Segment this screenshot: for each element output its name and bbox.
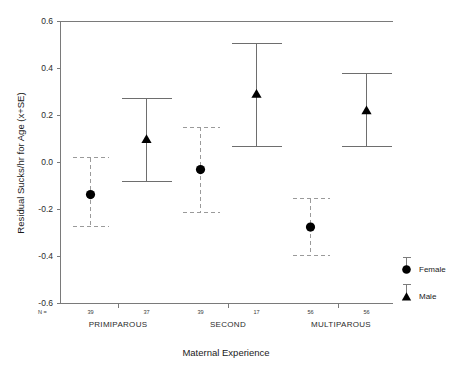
triangle-marker-male-multiparous [361,106,371,115]
legend-entry-female: Female [402,258,446,275]
data-group-primiparous [73,98,172,226]
triangle-marker-legend-male [402,292,411,300]
y-tick-label: -0.6 [38,298,53,308]
y-tick-label: -0.2 [38,204,53,214]
x-axis-title: Maternal Experience [182,347,269,358]
x-axis-group-labels: PRIMIPAROUS SECOND MULTIPAROUS [89,320,371,329]
n-value-male-multiparous: 56 [363,309,369,315]
triangle-marker-male-second [251,89,261,98]
n-value-female-multiparous: 56 [307,309,313,315]
n-value-female-primiparous: 39 [87,309,93,315]
n-value-male-primiparous: 37 [143,309,149,315]
x-group-label-primiparous: PRIMIPAROUS [89,320,148,329]
y-tick-label: 0.0 [41,157,53,167]
n-value-male-second: 17 [253,309,259,315]
triangle-marker-male-primiparous [141,134,151,143]
legend-label-male: Male [419,292,437,301]
x-group-label-second: SECOND [210,320,246,329]
data-group-multiparous [293,74,392,256]
chart-figure: 0.6 0.4 0.2 0.0 -0.2 -0.4 -0.6 Residual … [0,0,467,374]
y-tick-label: 0.6 [41,16,53,26]
circle-marker-legend-female [402,265,411,274]
plot-frame [61,22,393,304]
y-axis-ticks: 0.6 0.4 0.2 0.0 -0.2 -0.4 -0.6 [38,16,60,308]
y-tick-label: -0.4 [38,251,53,261]
x-group-label-multiparous: MULTIPAROUS [311,320,371,329]
legend-entry-male: Male [402,285,437,302]
y-tick-label: 0.2 [41,110,53,120]
circle-marker-female-multiparous [306,223,315,232]
circle-marker-female-second [196,165,205,174]
residual-sucks-scatter-plot: 0.6 0.4 0.2 0.0 -0.2 -0.4 -0.6 Residual … [0,0,467,374]
n-row-caption: N = [38,309,47,315]
n-row: N = 39 37 39 17 56 56 [38,309,370,315]
chart-legend: Female Male [402,258,446,302]
circle-marker-female-primiparous [86,190,95,199]
x-axis-ticks [119,304,339,308]
y-axis-title: Residual Sucks/hr for Age (x+SE) [15,92,26,233]
y-tick-label: 0.4 [41,63,53,73]
n-value-female-second: 39 [197,309,203,315]
data-group-second [183,43,282,212]
legend-label-female: Female [419,265,446,274]
